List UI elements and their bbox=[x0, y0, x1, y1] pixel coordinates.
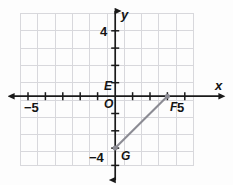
x-axis-name-label: x bbox=[215, 79, 222, 92]
coordinate-plane-svg bbox=[0, 0, 233, 185]
y-axis-name-label: y bbox=[121, 8, 128, 21]
coordinate-plane-figure: −5 5 4 −4 x y E O F G bbox=[0, 0, 233, 185]
point-marker-G bbox=[113, 146, 118, 151]
point-label-G: G bbox=[121, 150, 130, 162]
y-axis-tick-label-pos4: 4 bbox=[100, 25, 107, 38]
x-axis-tick-label-neg5: −5 bbox=[24, 101, 39, 114]
point-marker-F bbox=[165, 94, 170, 99]
point-label-E: E bbox=[104, 80, 112, 92]
origin-label-O: O bbox=[104, 98, 113, 110]
y-axis-tick-label-neg4: −4 bbox=[89, 151, 104, 164]
x-axis-tick-label-pos5: 5 bbox=[177, 101, 184, 114]
point-label-F: F bbox=[170, 101, 177, 113]
